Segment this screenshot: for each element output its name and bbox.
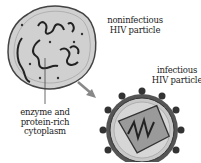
maturation-arrow — [78, 82, 96, 98]
infectious-label-line2: HIV particle — [150, 76, 201, 86]
infectious-label: infectious HIV particle — [150, 66, 201, 85]
noninfectious-label-line2: HIV particle — [100, 26, 170, 36]
noninfectious-label: noninfectious HIV particle — [100, 16, 170, 35]
infectious-particle — [100, 88, 185, 163]
cytoplasm-label: enzyme and protein-rich cytoplasm — [8, 108, 82, 137]
cytoplasm-label-line3: cytoplasm — [8, 127, 82, 137]
noninfectious-particle — [8, 6, 96, 89]
